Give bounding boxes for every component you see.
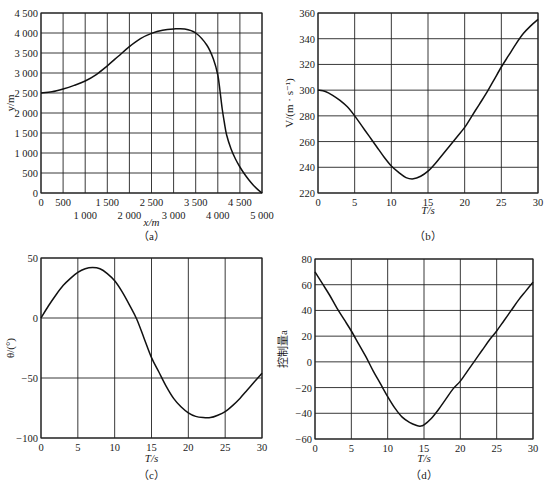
x-tick-label: 2 000 xyxy=(118,210,142,221)
subplot-a: 05001 0001 5002 0002 5003 0003 5004 0004… xyxy=(4,8,274,242)
y-tick-label: 40 xyxy=(302,305,313,316)
x-tick-label: 20 xyxy=(459,197,470,208)
x-tick-label: 25 xyxy=(491,443,502,454)
x-tick-label: 10 xyxy=(109,442,120,453)
x-tick-label: 500 xyxy=(55,197,71,208)
x-tick-label: 0 xyxy=(315,197,320,208)
x-tick-label: 1 000 xyxy=(73,210,97,221)
y-tick-label: 500 xyxy=(22,168,38,179)
y-tick-label: 20 xyxy=(302,331,313,342)
grid-lines xyxy=(41,13,262,193)
x-tick-label: 1 500 xyxy=(95,197,119,208)
x-axis-label: T/s xyxy=(417,452,430,464)
x-tick-label: 3 500 xyxy=(184,197,208,208)
x-axis-label: T/s xyxy=(145,452,158,464)
y-tick-label: −20 xyxy=(296,383,312,394)
y-tick-label: 0 xyxy=(307,357,312,368)
y-tick-label: 240 xyxy=(299,162,315,173)
x-axis-label: x/m xyxy=(143,216,160,228)
y-tick-label: 280 xyxy=(299,111,315,122)
x-tick-label: 30 xyxy=(533,197,544,208)
y-tick-label: 1 500 xyxy=(14,128,38,139)
y-tick-label: −40 xyxy=(296,408,312,419)
subplot-caption: （a） xyxy=(138,230,165,242)
y-tick-label: 0 xyxy=(33,188,38,199)
y-tick-label: 360 xyxy=(299,8,315,19)
y-tick-label: 220 xyxy=(299,188,315,199)
x-tick-label: 20 xyxy=(455,443,466,454)
y-tick-label: 60 xyxy=(302,280,313,291)
y-axis-label: V/(m · s⁻¹) xyxy=(283,78,296,128)
y-tick-label: 340 xyxy=(299,34,315,45)
y-tick-label: 260 xyxy=(299,137,315,148)
x-tick-label: 4 000 xyxy=(206,210,230,221)
y-axis-label: θ/(°) xyxy=(4,338,17,358)
y-tick-label: 3 000 xyxy=(14,68,38,79)
grid-lines xyxy=(41,258,262,438)
y-tick-label: 0 xyxy=(33,313,38,324)
x-tick-label: 4 500 xyxy=(228,197,252,208)
subplot-caption: （c） xyxy=(138,469,165,481)
x-tick-label: 5 xyxy=(75,442,80,453)
subplot-caption: （d） xyxy=(410,469,438,481)
subplot-d: −60−40−20020406080051015202530T/s控制量a（d） xyxy=(276,254,538,481)
x-tick-label: 30 xyxy=(257,442,268,453)
x-tick-label: 3 000 xyxy=(162,210,186,221)
y-tick-label: 2 000 xyxy=(14,108,38,119)
grid-lines xyxy=(318,13,538,193)
y-tick-label: 320 xyxy=(299,59,315,70)
y-tick-label: 80 xyxy=(302,254,313,265)
x-tick-label: 30 xyxy=(528,443,539,454)
x-tick-label: 5 000 xyxy=(250,210,274,221)
y-tick-label: 3 500 xyxy=(14,48,38,59)
y-axis-label: 控制量a xyxy=(276,330,289,368)
x-tick-label: 0 xyxy=(38,442,43,453)
figure-canvas: 05001 0001 5002 0002 5003 0003 5004 0004… xyxy=(0,0,545,488)
x-tick-label: 5 xyxy=(352,197,357,208)
x-tick-label: 2 500 xyxy=(140,197,164,208)
x-tick-label: 25 xyxy=(496,197,507,208)
x-tick-label: 25 xyxy=(220,442,231,453)
y-tick-label: 50 xyxy=(28,253,39,264)
x-tick-label: 20 xyxy=(183,442,194,453)
x-tick-label: 5 xyxy=(349,443,354,454)
y-tick-label: 1 000 xyxy=(14,148,38,159)
y-tick-label: 300 xyxy=(299,85,315,96)
x-tick-label: 0 xyxy=(312,443,317,454)
x-tick-label: 10 xyxy=(382,443,393,454)
subplot-b: 220240260280300320340360051015202530T/sV… xyxy=(283,8,543,242)
y-tick-label: −60 xyxy=(296,434,312,445)
x-tick-label: 10 xyxy=(386,197,397,208)
y-tick-label: −100 xyxy=(16,433,38,444)
subplot-caption: （b） xyxy=(414,230,442,242)
y-tick-label: −50 xyxy=(22,373,38,384)
grid-lines xyxy=(315,259,533,439)
y-tick-label: 4 000 xyxy=(14,28,38,39)
x-axis-label: T/s xyxy=(421,204,434,216)
subplot-c: −100−50050051015202530T/sθ/(°)（c） xyxy=(4,253,267,481)
x-tick-label: 0 xyxy=(38,197,43,208)
y-tick-label: 2 500 xyxy=(14,88,38,99)
y-tick-label: 4 500 xyxy=(14,8,38,19)
y-axis-label: y/m xyxy=(4,94,16,112)
